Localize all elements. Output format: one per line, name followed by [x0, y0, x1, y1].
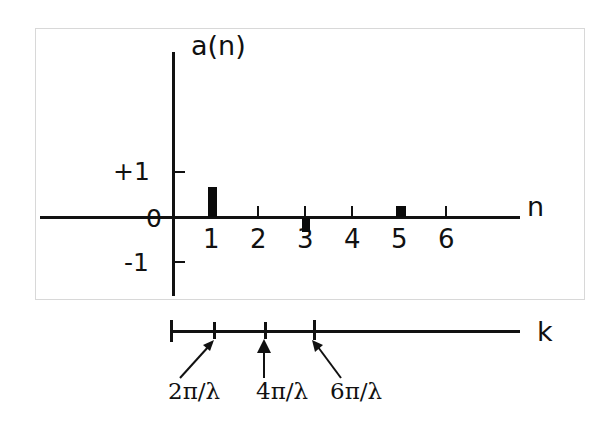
k-annotation-arrows [0, 0, 614, 422]
k-annotation-label-2: 4π/λ [256, 380, 308, 403]
k-annotation-label-1: 2π/λ [168, 380, 220, 403]
k-annotation-label-3: 6π/λ [330, 380, 382, 403]
figure-canvas: a(n) n +1 0 -1 1 2 3 4 5 6 k 2π/λ [0, 0, 614, 422]
